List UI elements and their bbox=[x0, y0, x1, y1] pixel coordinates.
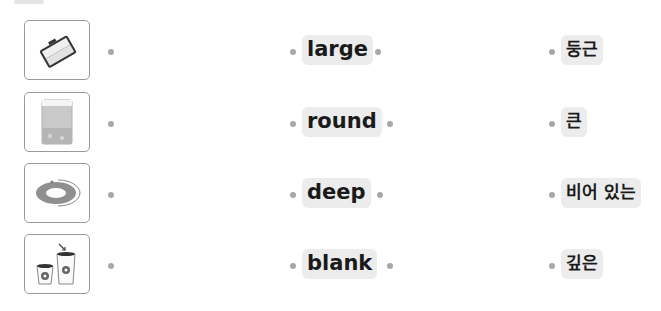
word-right-dot-3[interactable] bbox=[377, 192, 383, 198]
word-left-dot-2[interactable] bbox=[290, 121, 296, 127]
meaning-label-3: 비어 있는 bbox=[561, 178, 641, 208]
ring-plate-icon bbox=[32, 176, 82, 210]
word-right-dot-1[interactable] bbox=[375, 49, 381, 55]
water-tank-icon bbox=[40, 98, 74, 146]
match-row-1: large 둥근 bbox=[0, 20, 661, 82]
meaning-label-1: 둥근 bbox=[561, 35, 603, 65]
word-label-3: deep bbox=[302, 178, 371, 208]
match-row-3: deep 비어 있는 bbox=[0, 163, 661, 225]
word-left-dot-4[interactable] bbox=[290, 263, 296, 269]
picture-connector-dot-3[interactable] bbox=[108, 192, 114, 198]
meaning-dot-3[interactable] bbox=[549, 192, 555, 198]
picture-card-4 bbox=[24, 234, 90, 294]
word-left-dot-3[interactable] bbox=[290, 192, 296, 198]
word-label-1: large bbox=[302, 35, 373, 65]
paper-cups-icon bbox=[33, 240, 81, 288]
meaning-dot-1[interactable] bbox=[549, 49, 555, 55]
word-right-dot-2[interactable] bbox=[387, 121, 393, 127]
word-left-dot-1[interactable] bbox=[290, 49, 296, 55]
picture-card-1 bbox=[24, 20, 90, 80]
meaning-dot-2[interactable] bbox=[549, 121, 555, 127]
word-label-2: round bbox=[302, 107, 382, 137]
picture-connector-dot-1[interactable] bbox=[108, 49, 114, 55]
picture-connector-dot-4[interactable] bbox=[108, 263, 114, 269]
meaning-label-2: 큰 bbox=[561, 107, 587, 137]
open-suitcase-icon bbox=[35, 30, 79, 70]
header-fragment bbox=[14, 0, 44, 4]
meaning-dot-4[interactable] bbox=[549, 263, 555, 269]
match-row-4: blank 깊은 bbox=[0, 234, 661, 296]
picture-card-3 bbox=[24, 163, 90, 223]
word-label-4: blank bbox=[302, 249, 377, 279]
picture-card-2 bbox=[24, 92, 90, 152]
word-right-dot-4[interactable] bbox=[387, 263, 393, 269]
match-row-2: round 큰 bbox=[0, 92, 661, 154]
picture-connector-dot-2[interactable] bbox=[108, 121, 114, 127]
meaning-label-4: 깊은 bbox=[561, 249, 603, 279]
